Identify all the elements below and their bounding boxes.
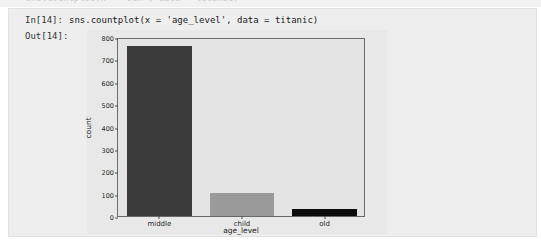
y-tick-label: 700 — [102, 57, 114, 65]
x-tick-mark — [242, 216, 243, 219]
x-tick-mark — [324, 216, 325, 219]
y-tick-label: 100 — [102, 192, 114, 200]
bars-layer — [118, 39, 364, 216]
y-tick-mark — [115, 195, 118, 196]
code-cell[interactable]: In[14]: sns.countplot(x = 'age_level', d… — [8, 8, 537, 237]
y-tick-label: 0 — [110, 214, 114, 222]
bar-old — [292, 209, 356, 216]
y-tick-label: 600 — [102, 80, 114, 88]
bar-child — [210, 193, 274, 216]
previous-cell-clipped-row: sns.countplot(x = 'sex', data = titanic) — [0, 0, 541, 7]
output-prompt-label: Out[14]: — [25, 31, 68, 41]
y-tick-mark — [115, 61, 118, 62]
y-tick-mark — [115, 218, 118, 219]
input-prompt-label: In[14]: — [25, 15, 63, 25]
matplotlib-figure: count 0100200300400500600700800 middlech… — [87, 30, 387, 234]
y-tick-mark — [115, 150, 118, 151]
y-tick-mark — [115, 106, 118, 107]
y-tick-label: 800 — [102, 35, 114, 43]
y-tick-mark — [115, 128, 118, 129]
y-tick-mark — [115, 39, 118, 40]
x-tick-mark — [159, 216, 160, 219]
y-tick-mark — [115, 83, 118, 84]
plot-axes: 0100200300400500600700800 middlechildold — [117, 38, 365, 217]
notebook-output-cell: sns.countplot(x = 'sex', data = titanic)… — [0, 0, 541, 248]
y-tick-label: 400 — [102, 125, 114, 133]
previous-cell-ghost-text: sns.countplot(x = 'sex', data = titanic) — [26, 0, 239, 3]
y-tick-label: 300 — [102, 147, 114, 155]
code-source-line[interactable]: sns.countplot(x = 'age_level', data = ti… — [69, 15, 318, 25]
y-tick-mark — [115, 173, 118, 174]
bar-middle — [127, 46, 191, 216]
y-tick-label: 200 — [102, 169, 114, 177]
x-axis-label: age_level — [117, 226, 365, 235]
y-axis-label: count — [84, 117, 93, 138]
y-tick-label: 500 — [102, 102, 114, 110]
